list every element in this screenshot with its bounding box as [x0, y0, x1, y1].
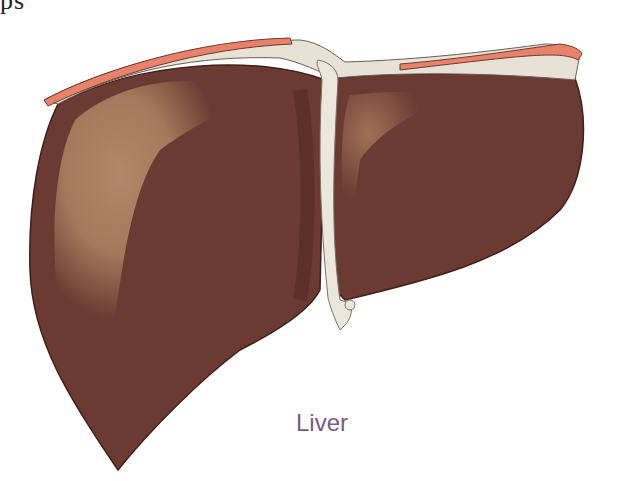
right-lobe — [30, 65, 325, 470]
liver-label: Liver — [296, 409, 348, 437]
left-lobe — [331, 74, 583, 300]
